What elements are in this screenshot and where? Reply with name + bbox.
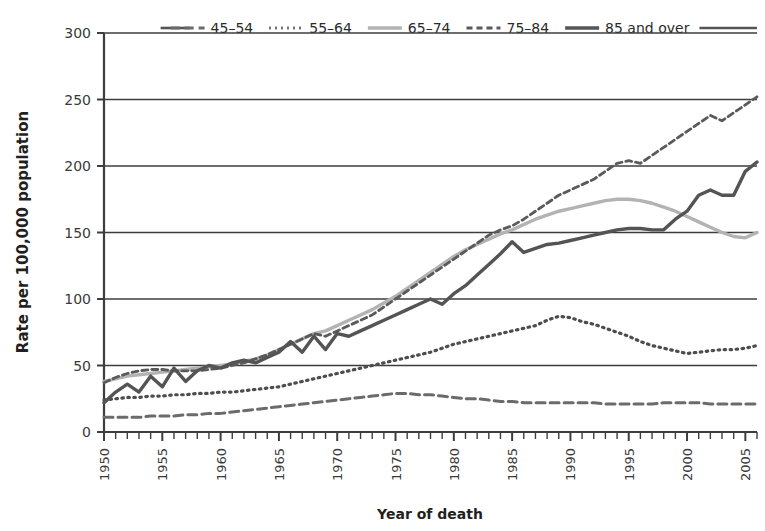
x-tick-label: 1995 xyxy=(622,448,637,481)
y-axis-title: Rate per 100,000 population xyxy=(14,111,32,353)
figure-background xyxy=(0,0,765,531)
x-tick-label: 1980 xyxy=(447,448,462,481)
y-tick-label: 100 xyxy=(64,291,91,307)
x-tick-label: 2005 xyxy=(738,448,753,481)
y-tick-label: 300 xyxy=(64,25,91,41)
x-axis-title: Year of death xyxy=(376,506,483,522)
y-tick-label: 200 xyxy=(64,158,91,174)
x-tick-label: 1970 xyxy=(330,448,345,481)
y-tick-label: 250 xyxy=(64,92,91,108)
y-tick-label: 50 xyxy=(73,358,91,374)
y-tick-label: 0 xyxy=(82,424,91,440)
line-chart-canvas: 45–5455–6465–7475–8485 and over 05010015… xyxy=(0,0,765,531)
x-tick-label: 1950 xyxy=(97,448,112,481)
y-tick-label: 150 xyxy=(64,225,91,241)
x-tick-label: 1960 xyxy=(214,448,229,481)
x-tick-label: 2000 xyxy=(680,448,695,481)
x-tick-label: 1990 xyxy=(563,448,578,481)
x-tick-label: 1975 xyxy=(389,448,404,481)
chart-figure: 45–5455–6465–7475–8485 and over 05010015… xyxy=(0,0,765,531)
x-tick-label: 1965 xyxy=(272,448,287,481)
x-tick-label: 1985 xyxy=(505,448,520,481)
x-tick-label: 1955 xyxy=(155,448,170,481)
